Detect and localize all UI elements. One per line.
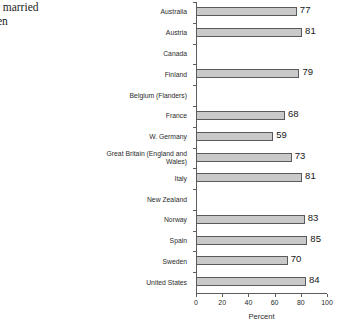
bar-row [196,189,327,210]
bar [196,215,305,224]
y-axis-tick [193,64,196,65]
category-label: Belgium (Flanders) [96,92,192,100]
chart-figure: t ever married women AustraliaAustriaCan… [0,0,357,329]
x-axis-tick-label: 100 [315,299,339,307]
category-label: France [96,112,192,120]
x-axis-tick [327,294,328,297]
category-label: New Zealand [96,196,192,204]
y-axis-tick [193,210,196,211]
bar [196,7,297,16]
bar-value-label: 68 [288,108,299,119]
y-axis-tick [193,168,196,169]
category-axis-labels: AustraliaAustriaCanadaFinlandBelgium (Fl… [96,2,192,293]
category-label: Austria [96,29,192,37]
bar-row: 79 [196,64,327,85]
x-axis-tick [275,294,276,297]
category-label: Australia [96,8,192,16]
bar-value-label: 79 [302,66,313,77]
bar-value-label: 83 [308,212,319,223]
bar-row: 81 [196,23,327,44]
bar-value-label: 59 [276,129,287,140]
category-label: Finland [96,71,192,79]
bar [196,236,307,245]
y-axis-tick [193,127,196,128]
bar [196,69,299,78]
bar [196,132,273,141]
bar-row: 85 [196,231,327,252]
bar-value-label: 84 [309,274,320,285]
x-axis-tick-label: 20 [210,299,234,307]
bar-row: 83 [196,210,327,231]
bar [196,277,306,286]
x-axis-title: Percent [196,312,327,321]
category-label: Great Britain (England and Wales) [96,150,192,166]
bar-row: 70 [196,251,327,272]
y-axis-tick [193,189,196,190]
bar-value-label: 85 [310,233,321,244]
category-label: United States [96,279,192,287]
x-axis-tick [196,294,197,297]
bar-row [196,85,327,106]
bar-value-label: 77 [300,4,311,15]
x-axis-tick [222,294,223,297]
bar-row: 73 [196,148,327,169]
y-axis-tick [193,23,196,24]
bar-value-label: 81 [305,170,316,181]
figure-caption: t ever married women [0,1,104,28]
y-axis-tick [193,44,196,45]
category-label: Sweden [96,258,192,266]
plot-area: 7781796859738183857084 [196,2,327,293]
bar-row [196,44,327,65]
category-label: W. Germany [96,133,192,141]
y-axis-tick [193,2,196,3]
category-label: Spain [96,237,192,245]
y-axis-tick [193,231,196,232]
bar-row: 77 [196,2,327,23]
bar [196,173,302,182]
category-label: Norway [96,216,192,224]
bar-row: 81 [196,168,327,189]
x-axis-tick-label: 40 [236,299,260,307]
x-axis-tick-label: 0 [184,299,208,307]
x-axis-tick [248,294,249,297]
bar [196,153,292,162]
bar-value-label: 81 [305,25,316,36]
category-label: Canada [96,50,192,58]
bar-value-label: 73 [295,150,306,161]
bar [196,111,285,120]
y-axis-tick [193,272,196,273]
bar-row: 59 [196,127,327,148]
bar-row: 84 [196,272,327,293]
x-axis-line [196,293,327,294]
category-label: Italy [96,175,192,183]
x-axis-tick-label: 80 [289,299,313,307]
x-axis-tick [301,294,302,297]
y-axis-tick [193,251,196,252]
bar [196,28,302,37]
y-axis-tick [193,148,196,149]
y-axis-tick [193,85,196,86]
bar-value-label: 70 [291,253,302,264]
x-axis-tick-label: 60 [263,299,287,307]
bar-row: 68 [196,106,327,127]
y-axis-tick [193,106,196,107]
bar [196,256,288,265]
